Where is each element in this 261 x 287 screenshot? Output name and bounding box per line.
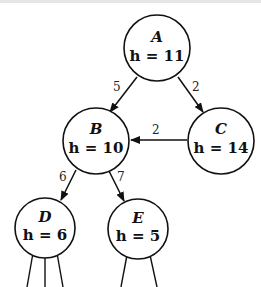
- stub-d-3: [57, 253, 63, 287]
- node-c-label: C: [215, 120, 227, 138]
- edge-weight-b-e: 7: [117, 170, 125, 184]
- node-d: D h = 6: [15, 198, 75, 258]
- edge-weight-a-c: 2: [192, 80, 200, 94]
- edge-weight-b-d: 6: [59, 170, 67, 184]
- node-e: E h = 5: [108, 199, 168, 259]
- stub-e-1: [121, 255, 127, 287]
- node-a-heuristic: h = 11: [130, 47, 185, 65]
- edge-weight-c-b: 2: [152, 123, 160, 137]
- graph-diagram: 5 2 2 6 7 A h = 11 B h = 10 C h = 14 D h…: [0, 0, 261, 287]
- node-a: A h = 11: [124, 15, 190, 81]
- node-e-label: E: [131, 209, 144, 227]
- node-b-heuristic: h = 10: [69, 139, 124, 157]
- stub-d-1: [27, 253, 33, 287]
- node-e-heuristic: h = 5: [116, 227, 160, 245]
- node-c-heuristic: h = 14: [194, 139, 249, 157]
- node-b: B h = 10: [63, 108, 129, 174]
- node-b-label: B: [89, 120, 103, 138]
- node-c: C h = 14: [188, 108, 254, 174]
- node-a-label: A: [149, 28, 163, 46]
- node-d-label: D: [37, 208, 51, 226]
- stub-e-2: [150, 255, 157, 287]
- node-d-heuristic: h = 6: [23, 226, 67, 244]
- edge-weight-a-b: 5: [113, 80, 121, 94]
